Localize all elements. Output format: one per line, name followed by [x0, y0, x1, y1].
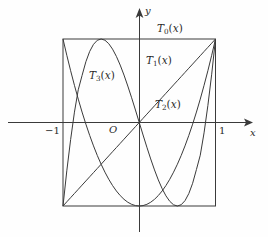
curve-label-T3-base: T [89, 69, 96, 81]
curve-label-T0: T0(x) [157, 23, 183, 35]
chebyshev-polynomials-figure: x y O −1 1 T0(x) T1(x) T2(x) T3(x) [0, 0, 268, 237]
y-axis-label: y [145, 6, 151, 16]
curve-label-T2-base: T [155, 98, 162, 110]
origin-label: O [109, 125, 117, 135]
x-tick-label-one: 1 [219, 126, 225, 136]
x-tick-label-minus-one: −1 [45, 126, 60, 136]
x-axis-label: x [250, 128, 256, 138]
curve-label-T2: T2(x) [155, 99, 181, 111]
y-axis [136, 8, 144, 232]
curve-label-T3: T3(x) [89, 70, 115, 82]
curve-label-T0-base: T [157, 22, 164, 34]
curve-label-T1-base: T [146, 54, 153, 66]
plot-canvas [0, 0, 268, 237]
curve-label-T1: T1(x) [146, 55, 172, 67]
